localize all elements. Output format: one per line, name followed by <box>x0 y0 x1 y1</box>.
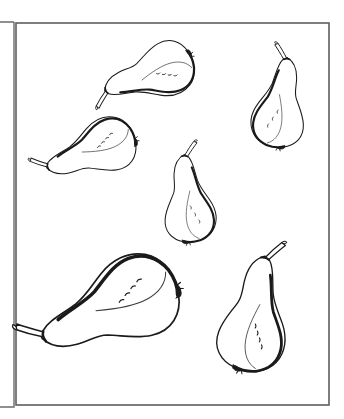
pears-line-drawing <box>0 0 344 419</box>
artwork-page: Six Pears pen-and-ink line drawing <box>0 0 344 419</box>
